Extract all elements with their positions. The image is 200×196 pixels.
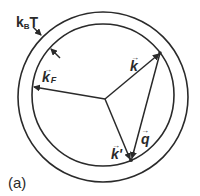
k-tip-dot [158, 51, 162, 55]
q-label: q [141, 131, 150, 147]
kF-label: kF [42, 69, 57, 85]
k-prime-tip-dot [129, 158, 133, 162]
thermal-shell-label: kBT [16, 14, 39, 31]
outer-thermal-shell-circle [18, 12, 188, 182]
thermal-shell-tick-inner [51, 49, 60, 58]
fermi-surface-diagram: kBT → kF → k → q → k' (a) [0, 0, 200, 196]
k-label: k [130, 58, 139, 74]
panel-label: (a) [8, 174, 26, 191]
kF-vector-arrow [34, 87, 105, 99]
k-prime-label: k' [111, 146, 123, 162]
inner-fermi-surface-circle [32, 24, 174, 166]
